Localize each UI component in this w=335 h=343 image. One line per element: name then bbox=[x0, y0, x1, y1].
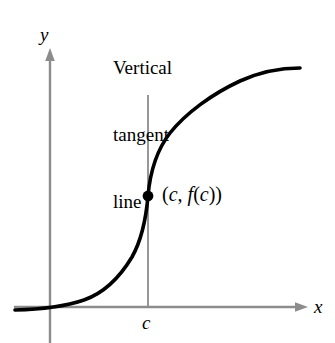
paren-open: ( bbox=[162, 183, 169, 205]
point-var-c-second: c bbox=[200, 183, 209, 205]
vertical-tangent-diagram: Vertical tangent line (c, f(c)) y x c bbox=[0, 0, 335, 343]
x-axis-label: x bbox=[314, 296, 322, 318]
x-axis-arrowhead-icon bbox=[295, 302, 308, 312]
y-axis-label: y bbox=[40, 24, 48, 46]
paren-inner-open: ( bbox=[193, 183, 200, 205]
x-axis-tick-label-c: c bbox=[142, 312, 150, 334]
vertical-tangent-callout: Vertical tangent line bbox=[113, 12, 172, 258]
point-var-c-first: c bbox=[169, 183, 178, 205]
callout-line-1: Vertical bbox=[113, 57, 172, 79]
tangent-point-label: (c, f(c)) bbox=[162, 183, 222, 207]
y-axis-arrowhead-icon bbox=[45, 48, 55, 61]
paren-close: ) bbox=[215, 183, 222, 205]
callout-line-2: tangent bbox=[113, 124, 172, 146]
point-comma: , bbox=[178, 183, 188, 205]
